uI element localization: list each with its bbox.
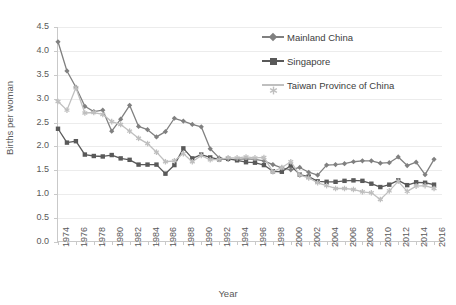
x-tick-label: 2010 [383, 227, 393, 247]
x-axis-title: Year [0, 288, 456, 299]
x-tick-label: 2006 [348, 227, 358, 247]
x-tick-label: 1988 [186, 227, 196, 247]
x-tick-label: 1982 [133, 227, 143, 247]
x-tick-label: 2012 [401, 227, 411, 247]
x-tick-label: 1998 [276, 227, 286, 247]
x-tick-label: 2004 [330, 227, 340, 247]
x-tick-label: 2000 [294, 227, 304, 247]
legend-diamond-icon [262, 31, 284, 43]
x-tick-label: 1996 [258, 227, 268, 247]
y-tick-label: 0.5 [19, 212, 49, 222]
y-tick-label: 0.0 [19, 236, 49, 246]
x-tick-label: 2014 [419, 227, 429, 247]
y-tick-label: 4.5 [19, 21, 49, 31]
x-tick-label: 1978 [97, 227, 107, 247]
legend-label: Mainland China [284, 32, 353, 43]
legend-star-icon [262, 79, 284, 91]
chart-legend: Mainland ChinaSingaporeTaiwan Province o… [262, 31, 394, 91]
x-tick-label: 1984 [151, 227, 161, 247]
x-tick-label: 1990 [204, 227, 214, 247]
legend-label: Taiwan Province of China [284, 80, 394, 91]
x-tick-label: 1980 [115, 227, 125, 247]
y-tick-label: 4.0 [19, 45, 49, 55]
y-tick-label: 2.0 [19, 140, 49, 150]
x-tick-label: 2008 [365, 227, 375, 247]
legend-square-icon [262, 55, 284, 67]
y-axis-title: Births per woman [4, 81, 15, 155]
legend-entry: Singapore [262, 55, 394, 67]
series-taiwan-province-of-china [56, 85, 437, 202]
y-tick-label: 2.5 [19, 117, 49, 127]
y-tick-label: 1.0 [19, 188, 49, 198]
legend-entry: Taiwan Province of China [262, 79, 394, 91]
legend-label: Singapore [284, 56, 330, 67]
x-tick-label: 1986 [168, 227, 178, 247]
x-tick-label: 1976 [79, 227, 89, 247]
legend-entry: Mainland China [262, 31, 394, 43]
y-tick-label: 1.5 [19, 164, 49, 174]
y-tick-label: 3.5 [19, 69, 49, 79]
x-tick-label: 1994 [240, 227, 250, 247]
fertility-line-chart: Births per woman Year 4.54.03.53.02.52.0… [0, 0, 456, 305]
y-tick-label: 3.0 [19, 93, 49, 103]
x-tick-label: 1974 [61, 227, 71, 247]
x-tick-label: 2002 [312, 227, 322, 247]
x-tick-label: 2016 [437, 227, 447, 247]
x-tick-label: 1992 [222, 227, 232, 247]
